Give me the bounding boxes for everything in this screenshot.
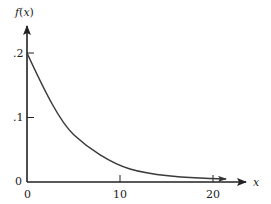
y-tick-label: 0 — [15, 175, 22, 188]
density-curve — [27, 53, 226, 179]
x-tick-label: 20 — [206, 188, 220, 201]
y-axis-label: f(x) — [14, 6, 34, 19]
x-axis-label: x — [253, 176, 260, 189]
y-tick-label: .2 — [13, 47, 24, 60]
x-tick-label: 0 — [24, 188, 31, 201]
chart: f(x) x .2 .1 0 0 10 20 — [0, 0, 271, 204]
x-tick-label: 10 — [113, 188, 127, 201]
y-tick-label: .1 — [13, 111, 24, 124]
